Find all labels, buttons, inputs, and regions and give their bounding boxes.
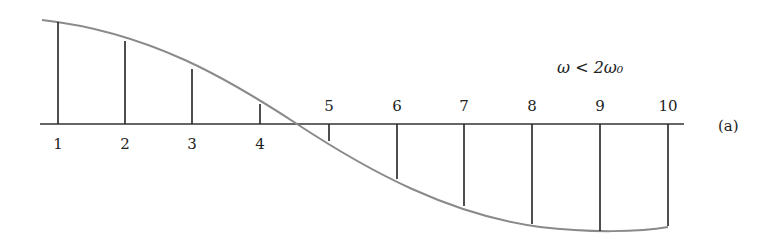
stems-group	[58, 22, 668, 231]
point-label-5: 5	[324, 97, 334, 115]
envelope-curve	[42, 20, 668, 231]
point-label-8: 8	[527, 97, 537, 115]
point-labels-group: 12345678910	[53, 97, 677, 153]
point-label-9: 9	[595, 97, 605, 115]
point-label-4: 4	[255, 135, 265, 153]
point-label-2: 2	[120, 135, 130, 153]
point-label-3: 3	[187, 135, 197, 153]
point-label-1: 1	[53, 135, 63, 153]
point-label-7: 7	[459, 97, 469, 115]
panel-label: (a)	[718, 117, 739, 135]
point-label-6: 6	[392, 97, 402, 115]
condition-label: ω < 2ω₀	[557, 58, 624, 77]
point-label-10: 10	[658, 97, 677, 115]
stem-diagram: 12345678910 ω < 2ω₀ (a)	[0, 0, 781, 247]
